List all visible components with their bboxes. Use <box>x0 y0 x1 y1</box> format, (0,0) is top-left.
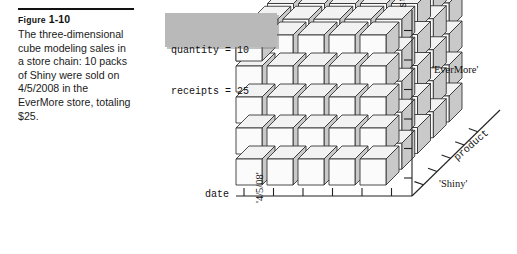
axis-label-store: store <box>398 0 409 8</box>
figure-root: Figure 1-10 The three-dimensional cube m… <box>0 0 517 254</box>
callout-text: quantity = 10 receipts = 25 <box>171 17 249 125</box>
callout-box: quantity = 10 receipts = 25 <box>165 13 277 47</box>
callout-line-quantity: quantity = 10 <box>171 44 249 58</box>
tick-label-product-shiny: 'Shiny' <box>439 178 467 189</box>
tick-label-date-value: '4/5/08' <box>254 172 265 203</box>
tick-label-store-evermore: 'EverMore' <box>432 64 478 75</box>
callout-line-receipts: receipts = 25 <box>171 85 249 99</box>
axis-label-date: date <box>205 189 229 200</box>
